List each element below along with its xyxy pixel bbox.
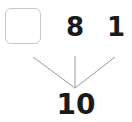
number-bond-diagram: 8 1 10 bbox=[0, 0, 132, 122]
left-connector-line bbox=[33, 57, 75, 88]
right-connector-line bbox=[75, 57, 115, 88]
whole-number-10: 10 bbox=[55, 91, 97, 119]
